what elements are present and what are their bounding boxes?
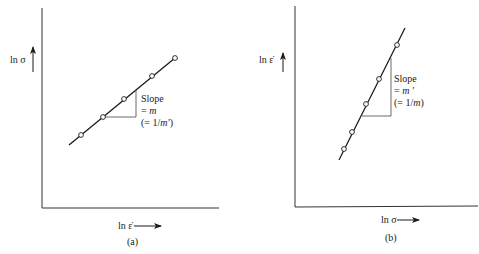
data-point: [377, 77, 382, 82]
slope-label-line1: Slope: [141, 93, 164, 104]
data-point: [395, 43, 400, 48]
figure-canvas: ln σ Slope = m (= 1/m′) ln ε̇ (a) ln ε̇: [0, 0, 479, 254]
data-point: [364, 102, 369, 107]
slope-label-line1: Slope: [394, 73, 417, 84]
slope-triangle: [362, 58, 391, 116]
slope-label-line3: (= 1/m′): [141, 117, 173, 129]
data-point: [122, 97, 127, 102]
panel-caption: (b): [385, 232, 397, 244]
data-point: [150, 74, 155, 79]
x-axis: [295, 206, 478, 207]
y-axis-label: ln σ: [10, 54, 26, 65]
y-axis-label: ln ε̇: [259, 54, 274, 65]
panel-caption: (a): [127, 236, 138, 248]
data-point: [79, 133, 84, 138]
panel-a: ln σ Slope = m (= 1/m′) ln ε̇ (a): [10, 8, 219, 248]
data-point: [342, 147, 347, 152]
data-point: [350, 130, 355, 135]
data-point: [173, 56, 178, 61]
slope-label-line2: = m: [141, 105, 156, 116]
data-point: [101, 115, 106, 120]
x-axis-label: ln ε̇: [118, 220, 133, 231]
slope-label-line2: = m ′: [394, 85, 415, 96]
x-axis-label: ln σ: [381, 214, 397, 225]
panel-b: ln ε̇ Slope = m ′ (= 1/m) ln σ (b): [259, 6, 478, 244]
slope-label-line3: (= 1/m): [394, 97, 424, 109]
